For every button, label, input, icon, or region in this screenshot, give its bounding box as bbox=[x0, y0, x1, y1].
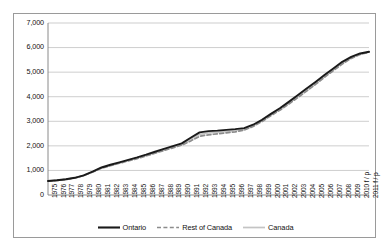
x-axis-tick-label: 1980 bbox=[95, 184, 102, 198]
chart-legend: OntarioRest of CanadaCanada bbox=[14, 223, 377, 232]
y-axis-tick-label: 5,000 bbox=[14, 68, 44, 76]
x-axis-tick-label: 1982 bbox=[113, 184, 120, 198]
x-axis-tick-label: 2008 bbox=[345, 184, 352, 198]
x-axis-tick-label: 2009 bbox=[354, 184, 361, 198]
x-axis-tick-label: 1999 bbox=[265, 184, 272, 198]
x-axis-tick-label: 1989 bbox=[175, 184, 182, 198]
x-axis-tick-label: 2001 bbox=[282, 184, 289, 198]
x-axis-tick-label: 1983 bbox=[122, 184, 129, 198]
x-axis-tick-label: 1987 bbox=[158, 184, 165, 198]
x-axis-tick-label: 1990 bbox=[184, 184, 191, 198]
y-axis-tick-label: 0 bbox=[14, 191, 44, 199]
y-axis-tick-label: 3,000 bbox=[14, 117, 44, 125]
y-axis-tick-label: 7,000 bbox=[14, 19, 44, 27]
x-axis-tick-label: 1993 bbox=[211, 184, 218, 198]
series-line-ontario bbox=[48, 52, 369, 181]
chart-svg bbox=[14, 14, 377, 239]
legend-swatch-ontario-icon bbox=[98, 224, 120, 231]
x-axis-tick-label: 1981 bbox=[104, 184, 111, 198]
x-axis-tick-label: 1975 bbox=[51, 184, 58, 198]
chart-container: 01,0002,0003,0004,0005,0006,0007,000 197… bbox=[13, 13, 376, 238]
x-axis-tick-label: 1994 bbox=[220, 184, 227, 198]
x-axis-tick-label: 2000 bbox=[274, 184, 281, 198]
x-axis-tick-label: 1986 bbox=[149, 184, 156, 198]
x-axis-tick-label: 1991 bbox=[193, 184, 200, 198]
x-axis-tick-label: 2006 bbox=[327, 184, 334, 198]
x-axis-tick-label: 1978 bbox=[77, 184, 84, 198]
y-axis-tick-label: 1,000 bbox=[14, 166, 44, 174]
series-line-canada bbox=[48, 52, 369, 181]
x-axis-tick-label: 2011 f / p bbox=[372, 172, 379, 198]
x-axis-tick-label: 2007 bbox=[336, 184, 343, 198]
x-axis-tick-label: 1976 bbox=[60, 184, 67, 198]
x-axis-tick-label: 1996 bbox=[238, 184, 245, 198]
x-axis-tick-label: 1977 bbox=[68, 184, 75, 198]
series-line-rest-of-canada bbox=[48, 52, 369, 181]
y-axis-tick-label: 4,000 bbox=[14, 93, 44, 101]
legend-label: Ontario bbox=[123, 223, 147, 232]
x-axis-tick-label: 1992 bbox=[202, 184, 209, 198]
plot-area: 01,0002,0003,0004,0005,0006,0007,000 197… bbox=[14, 14, 377, 239]
legend-item-rest-of-canada[interactable]: Rest of Canada bbox=[157, 223, 232, 232]
x-axis-tick-label: 1979 bbox=[86, 184, 93, 198]
legend-item-ontario[interactable]: Ontario bbox=[98, 223, 147, 232]
x-axis-tick-label: 1997 bbox=[247, 184, 254, 198]
x-axis-tick-label: 1985 bbox=[140, 184, 147, 198]
x-axis-tick-label: 2002 bbox=[291, 184, 298, 198]
x-axis-tick-label: 1998 bbox=[256, 184, 263, 198]
y-axis-tick-label: 6,000 bbox=[14, 43, 44, 51]
y-axis-tick-label: 2,000 bbox=[14, 142, 44, 150]
legend-item-canada[interactable]: Canada bbox=[243, 223, 293, 232]
legend-label: Canada bbox=[268, 223, 293, 232]
x-axis-tick-label: 1984 bbox=[131, 184, 138, 198]
x-axis-tick-label: 2005 bbox=[318, 184, 325, 198]
x-axis-tick-label: 2004 bbox=[309, 184, 316, 198]
legend-label: Rest of Canada bbox=[182, 223, 232, 232]
legend-swatch-rest-of-canada-icon bbox=[157, 224, 179, 231]
x-axis-tick-label: 2010 f / p bbox=[363, 172, 370, 198]
x-axis-tick-label: 1995 bbox=[229, 184, 236, 198]
x-axis-tick-label: 1988 bbox=[167, 184, 174, 198]
legend-swatch-canada-icon bbox=[243, 224, 265, 231]
x-axis-tick-label: 2003 bbox=[300, 184, 307, 198]
